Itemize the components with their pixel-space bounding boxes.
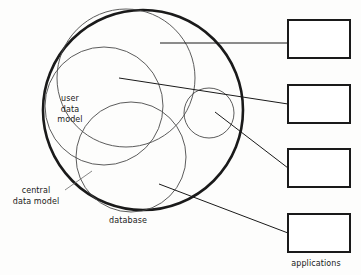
leader-line-3	[215, 112, 288, 168]
label-central-data-model: central data model	[8, 186, 64, 207]
diagram-vector-layer	[0, 0, 361, 275]
application-box-3[interactable]	[288, 149, 350, 187]
application-box-4[interactable]	[288, 214, 350, 252]
label-user-data-model: user data model	[52, 94, 88, 126]
label-database: database	[104, 216, 152, 227]
small-application-circle	[184, 88, 234, 138]
label-user-data-model-line-1: user	[52, 94, 88, 105]
leader-line-2	[119, 78, 288, 104]
label-central-data-model-line-1: central	[8, 186, 64, 197]
label-user-data-model-line-2: data	[52, 105, 88, 116]
application-box-2[interactable]	[288, 85, 350, 123]
label-applications: applications	[287, 259, 345, 270]
label-central-data-model-line-2: data model	[8, 197, 64, 208]
label-user-data-model-line-3: model	[52, 115, 88, 126]
user-data-model-circle	[57, 9, 195, 147]
diagram-canvas: user data model central data model datab…	[0, 0, 361, 275]
application-box-1[interactable]	[288, 20, 350, 58]
leader-line-4	[159, 184, 288, 233]
